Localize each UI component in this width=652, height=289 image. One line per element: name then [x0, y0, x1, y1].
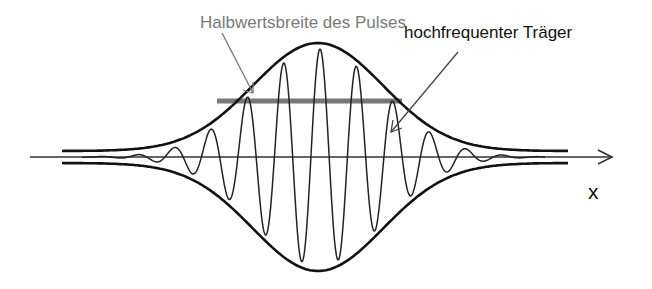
envelope-lower [62, 163, 568, 271]
carrier-label: hochfrequenter Träger [404, 24, 572, 41]
carrier-wave [82, 49, 545, 262]
carrier-pointer-arrow [391, 52, 458, 132]
wave-packet-plot [0, 0, 652, 289]
fwhm-pointer-arrow [222, 33, 253, 93]
x-axis-label: x [588, 181, 599, 202]
fwhm-label: Halbwertsbreite des Pulses [200, 14, 406, 31]
wave-packet-diagram: Halbwertsbreite des Pulses hochfrequente… [0, 0, 652, 289]
